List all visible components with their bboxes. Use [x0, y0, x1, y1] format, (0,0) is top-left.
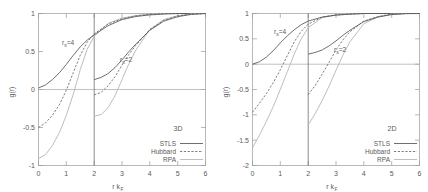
ytick-label-3: -0.5 [237, 86, 249, 93]
x-axis-title: r k [326, 183, 334, 190]
panel-2d-svg: -2 -1.5 -1 -0.5 0 0.5 1 [214, 0, 428, 192]
xtick-label-5: 5 [390, 170, 394, 177]
panel-dimension-label: 2D [388, 125, 397, 132]
ytick-label-2: 0 [31, 86, 35, 93]
legend: STLS Hubbard RPA [151, 140, 203, 163]
curve-stls-rs4 [39, 14, 206, 89]
ytick-label-3: 0.5 [25, 48, 35, 55]
rs4-label: rs=4 [62, 39, 74, 48]
xtick-label-2: 2 [306, 170, 310, 177]
svg-text:r kF: r kF [326, 183, 337, 192]
curve-rpa-rs4 [39, 14, 206, 159]
ytick-label-5: 0.5 [239, 35, 249, 42]
y-axis-title: g(r) [8, 87, 16, 98]
curve-stls-rs4 [253, 14, 420, 65]
legend-label-stls: STLS [160, 140, 177, 147]
xtick-label-4: 4 [148, 170, 152, 177]
panel-3d: -1 -0.5 0 0.5 1 0 [0, 0, 214, 192]
xtick-label-6: 6 [204, 170, 208, 177]
legend: STLS Hubbard RPA [365, 140, 417, 163]
xtick-label-0: 0 [37, 170, 41, 177]
legend-label-hubbard: Hubbard [365, 148, 390, 155]
x-axis-title-sub: F [335, 186, 338, 192]
curve-hubbard-rs2 [308, 14, 419, 95]
x-axis-title-sub: F [121, 186, 124, 192]
curve-hubbard-rs2 [94, 14, 205, 95]
y-axis-title: g(r) [222, 87, 230, 98]
ytick-label-4: 1 [31, 10, 35, 17]
rs2-label: rs=2 [334, 46, 346, 55]
xtick-label-2: 2 [92, 170, 96, 177]
ytick-label-0: -1 [29, 162, 35, 169]
xtick-label-1: 1 [64, 170, 68, 177]
figure-pair-correlation: -1 -0.5 0 0.5 1 0 [0, 0, 428, 192]
ytick-label-2: -1 [243, 111, 249, 118]
curve-rpa-rs2 [94, 14, 205, 117]
xtick-label-6: 6 [418, 170, 422, 177]
legend-label-rpa: RPA [163, 156, 177, 163]
svg-text:r kF: r kF [112, 183, 123, 192]
panel-dimension-label: 3D [174, 125, 183, 132]
xtick-label-3: 3 [334, 170, 338, 177]
xtick-label-5: 5 [176, 170, 180, 177]
curve-hubbard-rs4 [253, 14, 420, 113]
x-axis-title: r k [112, 183, 120, 190]
panel-3d-svg: -1 -0.5 0 0.5 1 0 [0, 0, 214, 192]
curve-rpa-rs2 [308, 14, 419, 126]
ytick-label-6: 1 [245, 10, 249, 17]
panel-2d: -2 -1.5 -1 -0.5 0 0.5 1 [214, 0, 428, 192]
xtick-label-0: 0 [251, 170, 255, 177]
curve-stls-rs2 [308, 14, 419, 55]
legend-label-rpa: RPA [377, 156, 391, 163]
legend-label-hubbard: Hubbard [151, 148, 176, 155]
ytick-label-1: -0.5 [23, 124, 35, 131]
rs2-label: rs=2 [120, 56, 132, 65]
ytick-label-4: 0 [245, 61, 249, 68]
legend-label-stls: STLS [374, 140, 391, 147]
xtick-label-3: 3 [120, 170, 124, 177]
rs4-label: rs=4 [274, 28, 286, 37]
ytick-label-0: -2 [243, 162, 249, 169]
xtick-label-4: 4 [362, 170, 366, 177]
xtick-label-1: 1 [278, 170, 282, 177]
curve-hubbard-rs4 [39, 14, 206, 128]
ytick-label-1: -1.5 [237, 137, 249, 144]
